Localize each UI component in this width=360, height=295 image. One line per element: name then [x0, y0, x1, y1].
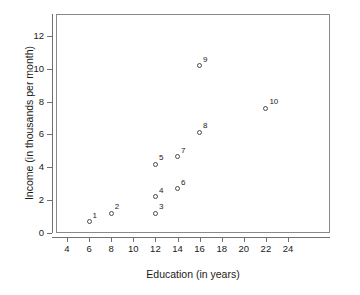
data-point: [153, 211, 158, 216]
x-tick-mark: [266, 237, 267, 242]
data-point-label: 6: [181, 179, 185, 187]
x-tick-label: 12: [143, 244, 167, 254]
x-tick-label: 6: [77, 244, 101, 254]
data-point-label: 4: [159, 187, 163, 195]
x-tick-label: 24: [276, 244, 300, 254]
x-tick-label: 18: [210, 244, 234, 254]
x-tick-mark: [89, 237, 90, 242]
x-tick-label: 8: [99, 244, 123, 254]
x-tick-label: 4: [55, 244, 79, 254]
scatter-chart: 024681012 4681012141618202224 1234567891…: [0, 0, 360, 295]
x-tick-label: 20: [232, 244, 256, 254]
data-point-label: 8: [203, 122, 207, 130]
x-tick-mark: [288, 237, 289, 242]
y-tick-mark: [47, 69, 52, 70]
data-point: [109, 211, 114, 216]
x-tick-mark: [133, 237, 134, 242]
y-tick-mark: [47, 102, 52, 103]
data-point: [153, 162, 158, 167]
y-tick-mark: [47, 36, 52, 37]
y-tick-mark: [47, 233, 52, 234]
data-point-label: 3: [159, 203, 163, 211]
x-tick-label: 14: [166, 244, 190, 254]
x-tick-mark: [67, 237, 68, 242]
x-tick-mark: [200, 237, 201, 242]
y-tick-mark: [47, 134, 52, 135]
data-point-label: 1: [93, 212, 97, 220]
x-tick-mark: [155, 237, 156, 242]
data-point: [197, 130, 202, 135]
data-point-label: 10: [269, 98, 278, 106]
y-axis-title: Income (in thousands per month): [23, 8, 35, 238]
y-axis-line: [52, 14, 53, 233]
x-tick-label: 10: [121, 244, 145, 254]
x-tick-mark: [244, 237, 245, 242]
data-point-label: 2: [115, 203, 119, 211]
x-tick-mark: [178, 237, 179, 242]
x-axis-title: Education (in years): [56, 268, 330, 280]
plot-area: [56, 14, 330, 233]
x-tick-mark: [222, 237, 223, 242]
data-point-label: 7: [181, 147, 185, 155]
data-point-label: 9: [203, 56, 207, 64]
y-tick-mark: [47, 200, 52, 201]
x-tick-mark: [111, 237, 112, 242]
data-point: [87, 219, 92, 224]
x-tick-label: 16: [188, 244, 212, 254]
x-tick-label: 22: [254, 244, 278, 254]
data-point-label: 5: [159, 154, 163, 162]
y-tick-mark: [47, 167, 52, 168]
